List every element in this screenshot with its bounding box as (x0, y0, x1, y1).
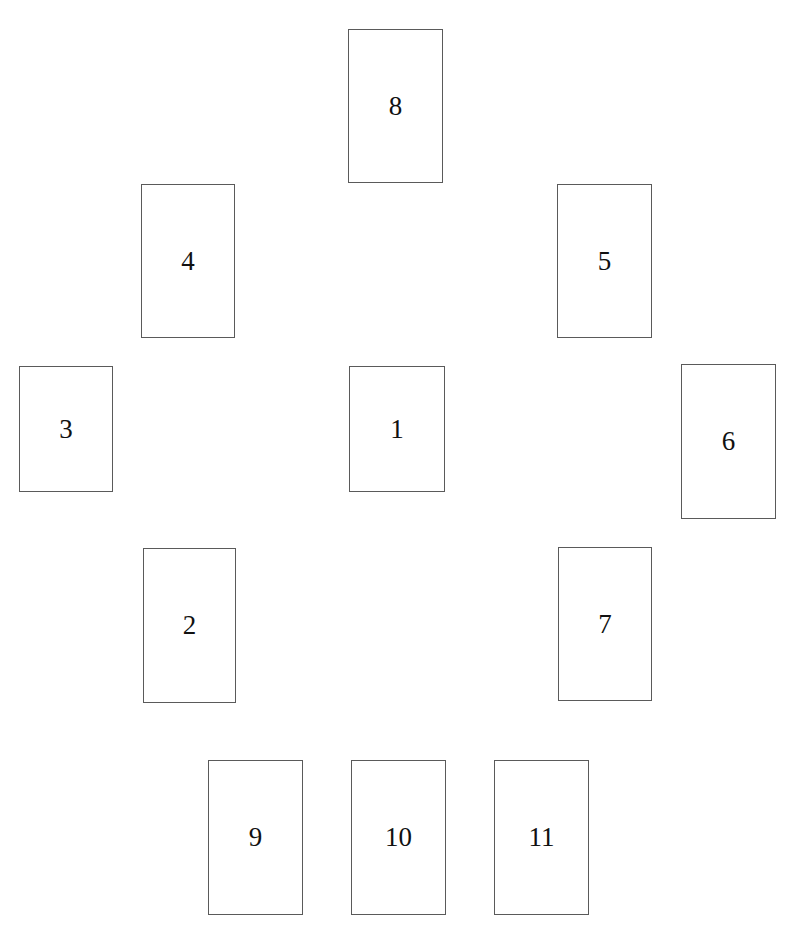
card-number-label: 1 (390, 416, 404, 443)
card-position-3: 3 (19, 366, 113, 492)
card-number-label: 5 (598, 248, 612, 275)
card-spread-diagram: 8453162791011 (0, 0, 789, 929)
card-position-6: 6 (681, 364, 776, 519)
card-position-5: 5 (557, 184, 652, 338)
card-position-11: 11 (494, 760, 589, 915)
card-position-8: 8 (348, 29, 443, 183)
card-position-2: 2 (143, 548, 236, 703)
card-number-label: 6 (722, 428, 736, 455)
card-number-label: 3 (59, 416, 73, 443)
card-number-label: 11 (529, 824, 555, 851)
card-position-4: 4 (141, 184, 235, 338)
card-number-label: 9 (249, 824, 263, 851)
card-number-label: 8 (389, 93, 403, 120)
card-position-1: 1 (349, 366, 445, 492)
card-position-10: 10 (351, 760, 446, 915)
card-number-label: 2 (183, 612, 197, 639)
card-number-label: 10 (385, 824, 412, 851)
card-position-7: 7 (558, 547, 652, 701)
card-number-label: 4 (181, 248, 195, 275)
card-number-label: 7 (598, 611, 612, 638)
card-position-9: 9 (208, 760, 303, 915)
